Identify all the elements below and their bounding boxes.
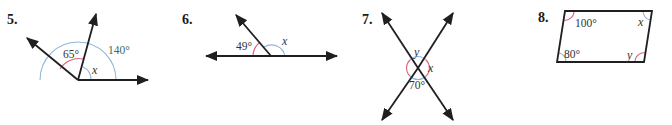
angle-label-y: y [413,45,420,59]
problem-number: 8. [538,10,549,25]
problem-number: 5. [7,12,18,27]
line-b-lower [382,68,418,120]
angle-arc-49 [253,42,260,56]
angle-label-x: x [637,15,644,29]
problem-5: 5. 65° 140° x [7,12,148,80]
line-a-upper [382,13,418,68]
line-b-upper [418,13,453,68]
angle-label-49: 49° [236,40,253,52]
problem-8: 8. 100° x 80° y [538,10,652,62]
line-a-lower [418,68,453,120]
angle-label-y: y [626,48,633,62]
angle-label-100: 100° [575,17,597,29]
angle-label-x: x [91,63,98,77]
angle-label-x: x [427,61,434,75]
problem-6: 6. 49° x [182,12,337,56]
geometry-exercises: 5. 65° 140° x 6. 49° x 7. y x 70° [0,0,672,125]
angle-label-140: 140° [108,44,130,56]
angle-label-80: 80° [564,48,581,60]
problem-number: 6. [182,12,193,27]
angle-arc-x [643,11,650,20]
angle-label-x: x [281,34,288,48]
angle-arc-x [83,67,91,80]
problem-7: 7. y x 70° [362,12,453,120]
problem-number: 7. [362,12,373,27]
angle-label-70: 70° [409,79,426,91]
angle-arc-left [407,60,410,76]
angle-label-65: 65° [63,48,80,60]
